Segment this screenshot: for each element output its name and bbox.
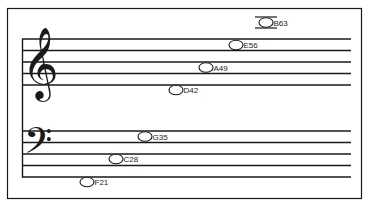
note-g35: G35 (138, 132, 168, 142)
outer-frame (8, 9, 362, 199)
whole-note-head (229, 40, 243, 50)
note-label: D42 (184, 86, 199, 95)
note-f21: F21 (80, 177, 109, 187)
whole-note-head (138, 132, 152, 142)
treble-staff (22, 39, 351, 85)
notes-layer: B63E56A49D42G35C28F21 (80, 17, 288, 187)
whole-note-head (199, 63, 213, 73)
treble-clef-icon: 𝄞 (22, 26, 59, 102)
note-d42: D42 (169, 85, 199, 95)
note-e56: E56 (229, 40, 258, 50)
note-label: G35 (153, 133, 169, 142)
note-c28: C28 (109, 154, 139, 164)
note-a49: A49 (199, 63, 228, 73)
note-label: B63 (274, 19, 289, 28)
note-b63: B63 (255, 17, 288, 28)
whole-note-head (259, 18, 273, 28)
note-label: F21 (95, 178, 109, 187)
note-label: E56 (244, 41, 259, 50)
note-label: A49 (214, 64, 229, 73)
grand-staff-diagram: 𝄞 𝄢 B63E56A49D42G35C28F21 (0, 0, 368, 207)
whole-note-head (109, 154, 123, 164)
note-label: C28 (124, 155, 139, 164)
whole-note-head (80, 177, 94, 187)
bass-staff (22, 131, 351, 177)
whole-note-head (169, 85, 183, 95)
bass-clef-icon: 𝄢 (24, 119, 52, 170)
